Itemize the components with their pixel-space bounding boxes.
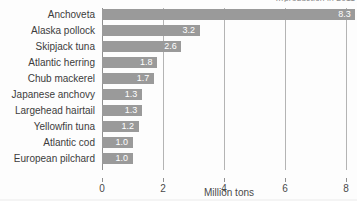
bar-row: Alaska pollock3.2 — [102, 25, 356, 36]
bar-row: European pilchard1.0 — [102, 153, 356, 164]
category-label: Atlantic herring — [28, 57, 95, 68]
bar-row: Atlantic cod1.0 — [102, 137, 356, 148]
chart-title-text: …production in 2011 — [275, 0, 355, 2]
bar[interactable] — [102, 9, 355, 20]
scan-edge — [0, 199, 357, 201]
category-label: Anchoveta — [48, 9, 95, 20]
bar-value-label: 1.3 — [125, 89, 138, 100]
tick-mark-4 — [224, 178, 225, 182]
bar-value-label: 1.3 — [125, 105, 138, 116]
bar-value-label: 3.2 — [183, 25, 196, 36]
category-label: Largehead hairtail — [15, 105, 95, 116]
bar-value-label: 2.6 — [164, 41, 177, 52]
bar-chart: …production in 2011 02468Anchoveta8.3Ala… — [0, 0, 357, 201]
category-label: Atlantic cod — [43, 137, 95, 148]
bar-value-label: 8.3 — [338, 9, 351, 20]
bar-row: Chub mackerel1.7 — [102, 73, 356, 84]
bar-value-label: 1.2 — [122, 121, 135, 132]
bar-value-label: 1.7 — [137, 73, 150, 84]
chart-title-clipped: …production in 2011 — [0, 0, 357, 2]
plot-area: 02468Anchoveta8.3Alaska pollock3.2Skipja… — [102, 8, 356, 170]
bar-row: Anchoveta8.3 — [102, 9, 356, 20]
bar-row: Japanese anchovy1.3 — [102, 89, 356, 100]
category-label: Japanese anchovy — [12, 89, 95, 100]
bar-row: Skipjack tuna2.6 — [102, 41, 356, 52]
x-axis-title: Million tons — [102, 187, 356, 198]
category-label: Skipjack tuna — [36, 41, 95, 52]
bar-value-label: 1.8 — [140, 57, 153, 68]
tick-mark-2 — [163, 178, 164, 182]
tick-mark-6 — [285, 178, 286, 182]
tick-mark-0 — [102, 178, 103, 182]
bar-row: Largehead hairtail1.3 — [102, 105, 356, 116]
category-label: European pilchard — [14, 153, 95, 164]
bar-row: Yellowfin tuna1.2 — [102, 121, 356, 132]
tick-mark-8 — [346, 178, 347, 182]
bar-row: Atlantic herring1.8 — [102, 57, 356, 68]
category-label: Yellowfin tuna — [34, 121, 95, 132]
category-label: Alaska pollock — [31, 25, 95, 36]
bar-value-label: 1.0 — [116, 137, 129, 148]
bar-value-label: 1.0 — [116, 153, 129, 164]
category-label: Chub mackerel — [28, 73, 95, 84]
